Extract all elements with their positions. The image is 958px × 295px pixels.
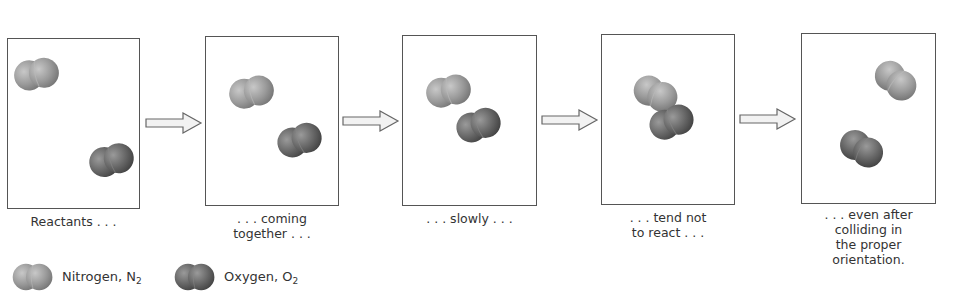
nitrogen-molecule-icon (867, 53, 926, 110)
arrow-right-icon (541, 109, 599, 131)
caption-reactants: Reactants . . . (7, 214, 140, 229)
nitrogen-molecule-icon (225, 70, 279, 113)
caption-after-colliding: . . . even after colliding in the proper… (801, 207, 936, 267)
oxygen-molecule-icon (833, 122, 892, 175)
oxygen-molecule-icon (84, 137, 139, 182)
legend-nitrogen: Nitrogen, N2 (10, 262, 142, 292)
panel-coming-together (205, 36, 339, 206)
legend-oxygen-label: Oxygen, O2 (224, 269, 298, 286)
panel-slowly (402, 35, 537, 206)
panel-reactants (7, 38, 140, 209)
caption-coming-together: . . . coming together . . . (205, 211, 339, 241)
panel-tend-not-to-react (601, 34, 735, 205)
oxygen-molecule-icon (451, 101, 507, 148)
oxygen-molecule-icon (272, 116, 328, 163)
arrow-right-icon (342, 110, 400, 132)
panel-after-colliding (801, 33, 936, 204)
legend-oxygen: Oxygen, O2 (172, 262, 298, 292)
nitrogen-molecule-icon (422, 69, 476, 112)
nitrogen-molecule-icon (10, 262, 56, 292)
legend-nitrogen-label: Nitrogen, N2 (62, 269, 142, 286)
nitrogen-molecule-icon (10, 53, 63, 95)
oxygen-molecule-icon (172, 262, 218, 292)
caption-tend-not-to-react: . . . tend not to react . . . (601, 210, 735, 240)
arrow-right-icon (739, 108, 797, 130)
caption-slowly: . . . slowly . . . (402, 211, 537, 226)
arrow-right-icon (145, 112, 203, 134)
